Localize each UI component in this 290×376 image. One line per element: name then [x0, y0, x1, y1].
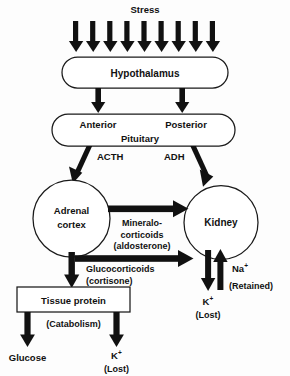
pituitary-posterior-label: Posterior: [165, 119, 207, 130]
adrenal-cortex-label-line1: Adrenal: [54, 205, 89, 216]
pituitary-anterior-label: Anterior: [80, 119, 117, 130]
glucocorticoids-label-line1: Glucocorticoids: [86, 264, 155, 274]
mineralocorticoids-label-line3: (aldosterone): [113, 241, 170, 251]
kidney-label: Kidney: [204, 217, 238, 228]
mineralocorticoids-label-line1: Mineralo-: [122, 218, 162, 228]
potassium-tissue-state: (Lost): [104, 364, 129, 374]
pituitary-center-label: Pituitary: [121, 133, 160, 144]
acth-label: ACTH: [97, 151, 124, 162]
glucose-label: Glucose: [9, 352, 47, 363]
stress-arrow-group: [69, 21, 220, 52]
adrenal-cortex-label-line2: cortex: [57, 219, 86, 230]
adh-label: ADH: [164, 151, 185, 162]
glucocorticoids-label-line2: (cortisone): [86, 276, 133, 286]
page-title: Stress: [130, 4, 159, 15]
potassium-kidney-state: (Lost): [196, 310, 221, 320]
tissue-protein-label: Tissue protein: [41, 295, 106, 306]
stress-response-diagram: Stress Hypothalamus: [0, 0, 290, 376]
sodium-kidney-state: (Retained): [229, 281, 273, 291]
catabolism-label: (Catabolism): [46, 319, 101, 329]
mineralocorticoids-label-line2: corticoids: [120, 230, 163, 240]
hypothalamus-label: Hypothalamus: [111, 68, 180, 79]
